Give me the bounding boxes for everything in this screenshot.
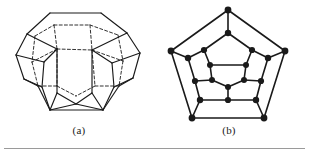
graph-vertex: [185, 55, 191, 61]
graph-vertex: [241, 77, 247, 83]
graph-vertex: [197, 97, 203, 103]
graph-vertex: [243, 62, 249, 68]
figure-panel-b: [152, 0, 306, 130]
graph-vertex: [209, 77, 215, 83]
bottom-horizontal-rule: [4, 148, 305, 149]
graph-vertex: [189, 115, 196, 122]
graph-vertex: [265, 55, 271, 61]
graph-vertex: [282, 48, 289, 55]
figure-panel-a: [2, 0, 156, 130]
graph-vertex: [258, 78, 264, 84]
figure-caption-b: (b): [152, 124, 306, 136]
graph-vertex: [192, 78, 198, 84]
edge-outer: [228, 10, 285, 51]
graph-vertex: [207, 62, 213, 68]
graph-vertex: [249, 47, 255, 53]
graph-vertex: [168, 48, 175, 55]
dodecahedron-graph-svg: [152, 0, 306, 126]
figure-pair: (a): [0, 0, 309, 157]
edge-outermid: [228, 33, 252, 50]
graph-vertex: [225, 84, 231, 90]
edge-outermid: [188, 58, 195, 81]
figure-caption-a: (a): [2, 124, 156, 136]
graph-vertex: [225, 97, 231, 103]
graph-vertex: [253, 97, 259, 103]
graph-vertex: [225, 30, 231, 36]
edge-outermid: [261, 58, 268, 81]
graph-vertex: [225, 7, 232, 14]
visible-edges-group: [16, 13, 140, 110]
edge-outer: [171, 10, 228, 51]
edge-outermid: [204, 33, 228, 50]
dodecahedron-solid-svg: [2, 0, 156, 126]
graph-vertex: [261, 115, 268, 122]
graph-vertex: [201, 47, 207, 53]
